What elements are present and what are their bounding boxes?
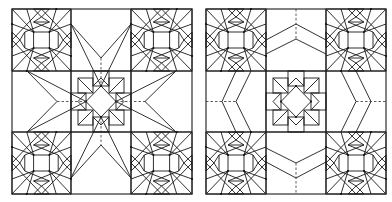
corner-block-top-left xyxy=(205,8,267,72)
corner-block-top-left xyxy=(11,8,72,72)
corner-block-bottom-left xyxy=(205,131,267,195)
quilt-panel-right xyxy=(196,0,392,202)
corner-block-bottom-left xyxy=(11,131,72,195)
hexagonal-bands xyxy=(206,9,386,194)
corner-block-top-right xyxy=(325,8,387,72)
corner-block-top-right xyxy=(130,8,193,72)
corner-block-bottom-right xyxy=(130,131,193,195)
corner-block-bottom-right xyxy=(325,131,387,195)
quilt-panel-left xyxy=(0,0,196,202)
center-star-block xyxy=(266,71,326,132)
